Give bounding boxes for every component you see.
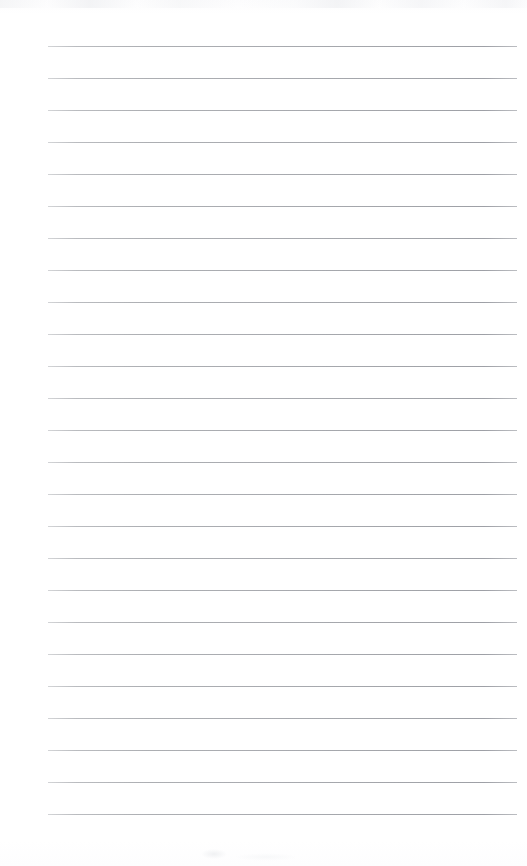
ruled-line bbox=[48, 558, 517, 559]
ruled-line bbox=[48, 270, 517, 271]
ruled-line bbox=[48, 686, 517, 687]
ruled-line bbox=[48, 110, 517, 111]
ruled-line bbox=[48, 590, 517, 591]
ruled-line bbox=[48, 142, 517, 143]
ruled-line bbox=[48, 782, 517, 783]
ruled-line bbox=[48, 430, 517, 431]
ruled-line bbox=[48, 78, 517, 79]
ruled-line bbox=[48, 526, 517, 527]
ruled-line bbox=[48, 398, 517, 399]
ruled-line bbox=[48, 302, 517, 303]
ruled-line bbox=[48, 206, 517, 207]
ruled-line bbox=[48, 174, 517, 175]
ruled-line bbox=[48, 494, 517, 495]
ruled-line bbox=[48, 654, 517, 655]
scanned-notebook-page bbox=[0, 0, 527, 866]
ruled-lines-container bbox=[0, 0, 527, 866]
ruled-line bbox=[48, 814, 517, 815]
ruled-line bbox=[48, 238, 517, 239]
ruled-line bbox=[48, 462, 517, 463]
ruled-line bbox=[48, 46, 517, 47]
ruled-line bbox=[48, 366, 517, 367]
ruled-line bbox=[48, 718, 517, 719]
ruled-line bbox=[48, 750, 517, 751]
ruled-line bbox=[48, 622, 517, 623]
ruled-line bbox=[48, 334, 517, 335]
